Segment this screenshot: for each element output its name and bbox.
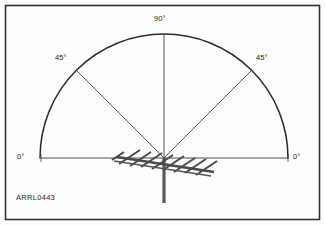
- angle-label-left-45: 45°: [55, 53, 67, 62]
- antenna-elevation-diagram: 90° 45° 45° 0° 0° ARRL0443: [0, 0, 325, 225]
- diagram-canvas: [0, 0, 325, 225]
- angle-label-right-0: 0°: [293, 152, 300, 161]
- angle-label-90: 90°: [154, 14, 166, 23]
- angle-label-left-0: 0°: [17, 152, 24, 161]
- angle-label-right-45: 45°: [256, 53, 268, 62]
- figure-caption: ARRL0443: [16, 193, 55, 202]
